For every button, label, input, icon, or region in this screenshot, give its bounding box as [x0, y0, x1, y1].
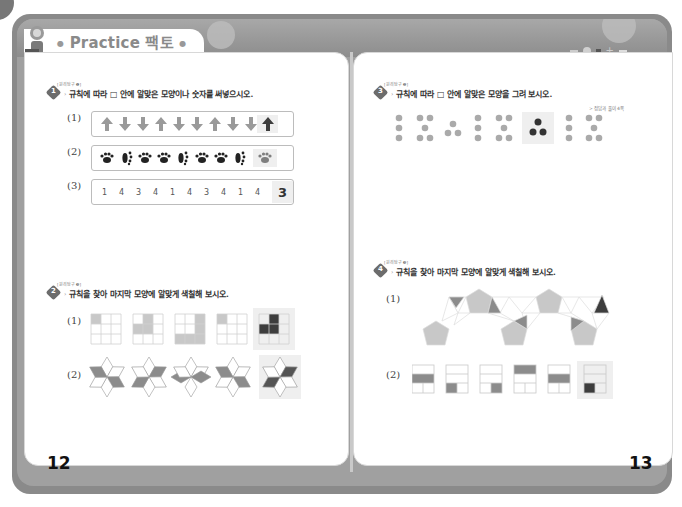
problem-number-badge: 4 — [374, 264, 388, 278]
problem-number-badge: 2 — [47, 286, 61, 300]
chevron-right-icon: › — [391, 268, 393, 275]
paw-front-icon — [157, 152, 170, 163]
item-label: (3) — [67, 180, 81, 191]
number-sequence-box: 1 4 3 4 1 4 3 4 1 4 3 — [91, 179, 294, 205]
grid-pattern-figures — [89, 306, 339, 356]
arrow-down-icon — [119, 117, 131, 131]
sequence-number: 1 — [164, 183, 181, 201]
corner-decoration — [0, 0, 14, 20]
paw-side-icon — [235, 152, 245, 166]
dots-5-x-icon — [496, 115, 513, 142]
paw-front-icon — [138, 152, 151, 163]
sequence-number: 4 — [181, 183, 198, 201]
dots-3-triangle-icon — [445, 121, 462, 137]
dot-sequence — [389, 110, 639, 150]
dots-5-x-icon — [586, 115, 603, 142]
arrow-up-icon — [101, 117, 113, 131]
left-page: [원리탐구 ❶] 1 › 규칙에 따라 □ 안에 알맞은 모양이나 숫자를 써넣… — [24, 52, 349, 466]
sun-decoration-icon — [207, 21, 235, 49]
dots-5-x-icon — [417, 115, 434, 142]
problem-heading: 4 › 규칙을 찾아 마지막 모양에 알맞게 색칠해 보시오. — [374, 264, 556, 278]
chevron-right-icon: › — [391, 90, 393, 97]
problem-number-badge: 1 — [47, 86, 61, 100]
problem-heading: 1 › 규칙에 따라 □ 안에 알맞은 모양이나 숫자를 써넣으시오. — [47, 86, 253, 100]
dots-3-vertical-icon — [396, 115, 403, 142]
sequence-number: 1 — [96, 183, 113, 201]
paw-front-icon — [195, 152, 208, 163]
sequence-number: 3 — [130, 183, 147, 201]
problem-number-badge: 3 — [374, 86, 388, 100]
arrow-up-icon — [209, 117, 221, 131]
problem-instruction: 규칙에 따라 □ 안에 알맞은 모양이나 숫자를 써넣으시오. — [69, 88, 253, 99]
arrow-down-icon — [245, 117, 257, 131]
book-frame: ● Practice 팩토 ● + [원리탐구 ❶] 1 › 규칙에 따라 □ … — [12, 14, 672, 494]
pentagon-shape — [423, 321, 449, 345]
book-inner: ● Practice 팩토 ● + [원리탐구 ❶] 1 › 규칙에 따라 □ … — [17, 19, 667, 486]
sequence-number: 3 — [198, 183, 215, 201]
rect-pattern-figures — [412, 361, 632, 401]
paw-side-icon — [122, 152, 132, 166]
arrow-sequence-box — [91, 111, 294, 137]
item-label: (2) — [67, 369, 81, 380]
problem-instruction: 규칙을 찾아 마지막 모양에 알맞게 색칠해 보시오. — [396, 266, 556, 277]
page-number: 12 — [47, 453, 71, 473]
pentagon-chain-figure — [414, 283, 624, 348]
item-label: (1) — [67, 315, 81, 326]
problem-instruction: 규칙을 찾아 마지막 모양에 알맞게 색칠해 보시오. — [69, 288, 229, 299]
paw-sequence — [98, 149, 278, 167]
arrow-down-icon — [227, 117, 239, 131]
arrow-sequence — [98, 115, 278, 133]
item-label: (2) — [67, 146, 81, 157]
right-page: > 정답과 풀이 4쪽 [원리탐구 ❷] 3 › 규칙에 따라 □ 안에 알맞은… — [353, 52, 673, 466]
dots-3-vertical-icon — [566, 115, 573, 142]
page-title: ● Practice 팩토 ● — [57, 31, 186, 52]
sequence-number: 4 — [113, 183, 130, 201]
title-korean: 팩토 — [145, 34, 173, 52]
pentagon-shape — [536, 289, 562, 313]
problem-instruction: 규칙에 따라 □ 안에 알맞은 모양을 그려 보시오. — [396, 88, 552, 99]
chevron-right-icon: › — [64, 290, 66, 297]
item-label: (1) — [386, 293, 400, 304]
paw-front-icon — [214, 152, 227, 163]
pentagon-shape — [466, 289, 492, 313]
paw-sequence-box — [91, 145, 294, 171]
dots-3-vertical-icon — [475, 115, 482, 142]
paw-side-icon — [178, 152, 188, 166]
sequence-number: 1 — [232, 183, 249, 201]
star-rhombus-figures — [87, 353, 337, 401]
item-label: (1) — [67, 112, 81, 123]
paw-front-icon — [100, 152, 113, 163]
sequence-number: 4 — [147, 183, 164, 201]
sequence-number: 4 — [215, 183, 232, 201]
sequence-number: 4 — [249, 183, 266, 201]
sequence-answer: 3 — [272, 181, 293, 203]
chevron-right-icon: › — [64, 90, 66, 97]
circle-decoration-icon — [602, 19, 636, 43]
item-label: (2) — [386, 369, 400, 380]
arrow-down-icon — [137, 117, 149, 131]
title-english: Practice — [70, 34, 140, 52]
page-number: 13 — [629, 453, 653, 473]
problem-heading: 3 › 규칙에 따라 □ 안에 알맞은 모양을 그려 보시오. — [374, 86, 552, 100]
problem-heading: 2 › 규칙을 찾아 마지막 모양에 알맞게 색칠해 보시오. — [47, 286, 229, 300]
arrow-down-icon — [173, 117, 185, 131]
arrow-up-icon — [155, 117, 167, 131]
arrow-down-icon — [191, 117, 203, 131]
